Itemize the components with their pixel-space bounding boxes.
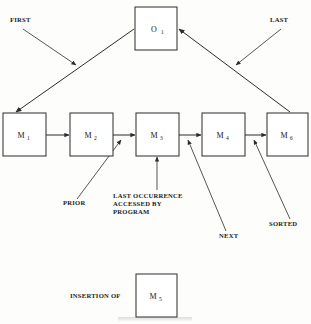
node-o1-subscript: 1 bbox=[161, 29, 164, 35]
callout-prior: PRIOR bbox=[63, 199, 86, 206]
callout-last-occurrence-line-3: PROGRAM bbox=[113, 208, 150, 215]
node-m4-label: M bbox=[216, 131, 223, 140]
diagram-canvas: O 1 M 1 M 2 M 3 M 4 M 6 bbox=[0, 0, 311, 324]
node-m2-label: M bbox=[84, 131, 91, 140]
callout-insertion-of: INSERTION OF bbox=[70, 292, 121, 299]
node-m4-subscript: 4 bbox=[226, 135, 229, 141]
leader-first bbox=[23, 29, 76, 65]
callout-last-occurrence-line-1: LAST OCCURRENCE bbox=[113, 192, 183, 199]
head-link-diagonal bbox=[16, 29, 134, 112]
callout-next: NEXT bbox=[219, 232, 239, 239]
callout-last: LAST bbox=[270, 16, 289, 23]
node-m1-label: M bbox=[17, 131, 24, 140]
node-m4[interactable]: M 4 bbox=[202, 113, 245, 156]
diagram-svg: O 1 M 1 M 2 M 3 M 4 M 6 bbox=[0, 0, 311, 324]
leader-last bbox=[236, 29, 281, 65]
callout-last-occurrence-line-2: ACCESSED BY bbox=[113, 200, 162, 207]
node-m5[interactable]: M 5 bbox=[136, 274, 177, 317]
page-footer-artifact bbox=[118, 317, 192, 322]
node-m3-label: M bbox=[150, 131, 157, 140]
callout-sorted: SORTED bbox=[269, 220, 297, 227]
node-m2[interactable]: M 2 bbox=[70, 113, 113, 156]
node-m3[interactable]: M 3 bbox=[136, 113, 179, 156]
node-m2-subscript: 2 bbox=[94, 135, 97, 141]
node-m6-subscript: 6 bbox=[290, 135, 293, 141]
callout-first: FIRST bbox=[10, 16, 31, 23]
callout-last-occurrence: LAST OCCURRENCE ACCESSED BY PROGRAM bbox=[113, 192, 183, 215]
node-m3-subscript: 3 bbox=[160, 135, 163, 141]
tail-link-diagonal bbox=[179, 29, 290, 112]
node-m1[interactable]: M 1 bbox=[3, 113, 46, 156]
node-m5-label: M bbox=[149, 292, 156, 301]
node-m6-label: M bbox=[280, 131, 287, 140]
node-m5-subscript: 5 bbox=[159, 296, 162, 302]
node-o1[interactable]: O 1 bbox=[135, 7, 177, 50]
node-m1-subscript: 1 bbox=[27, 135, 30, 141]
node-m6[interactable]: M 6 bbox=[267, 113, 308, 156]
node-o1-label: O bbox=[151, 25, 157, 34]
